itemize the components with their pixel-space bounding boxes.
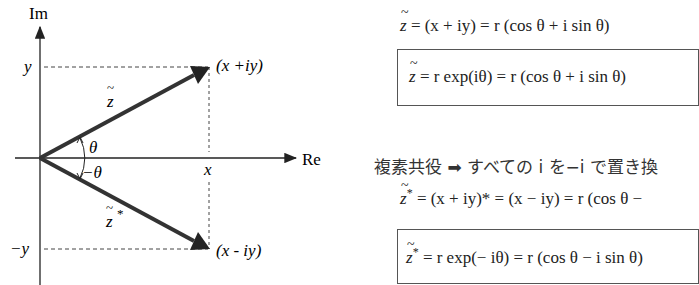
z-point-label: (x +iy): [216, 56, 263, 75]
equation-rhs: = r exp(− iθ) = r (cos θ − i sin θ): [423, 248, 643, 267]
y-tick-label: y: [22, 57, 32, 76]
equation-z-polar: z = r exp(iθ) = r (cos θ + i sin θ): [409, 67, 626, 87]
z-vector: [40, 75, 194, 158]
z-vector-label: z: [106, 92, 114, 111]
z-conj-star: *: [117, 206, 124, 221]
z-symbol: z: [400, 16, 407, 36]
equation-rhs: = (x + iy) = r (cos θ + i sin θ): [411, 16, 610, 35]
equation-zconj-cartesian: z* = (x + iy)* = (x − iy) = r (cos θ −: [400, 186, 642, 209]
complex-plane-diagram: Im Re y −y x (x +iy) (x - iy) θ −θ ~ z ~…: [0, 0, 340, 285]
equation-z-cartesian: z = (x + iy) = r (cos θ + i sin θ): [400, 16, 610, 36]
z-conj-vector: [40, 158, 194, 241]
equation-zconj-polar: z* = r exp(− iθ) = r (cos θ − i sin θ): [406, 245, 643, 268]
equation-rhs: = r exp(iθ) = r (cos θ + i sin θ): [420, 67, 626, 86]
conjugate-rule-text: 複素共役 ➡ すべての i を−i で置き換: [374, 153, 658, 178]
imag-axis-label: Im: [29, 4, 48, 23]
z-symbol: z: [400, 189, 407, 209]
real-axis-label: Re: [302, 150, 321, 169]
z-conj-point-label: (x - iy): [216, 241, 262, 260]
neg-theta-label: −θ: [82, 163, 102, 182]
x-tick-label: x: [203, 160, 212, 179]
z-symbol: z: [409, 67, 416, 87]
z-symbol: z: [406, 248, 413, 268]
theta-label: θ: [89, 138, 97, 157]
equation-rhs: = (x + iy)* = (x − iy) = r (cos θ −: [417, 189, 642, 208]
neg-y-tick-label: −y: [10, 239, 29, 258]
z-conj-vector-label: z: [105, 212, 113, 231]
